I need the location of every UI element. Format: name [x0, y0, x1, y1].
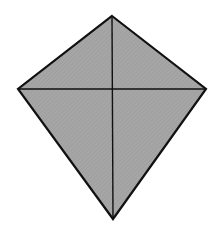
vertical-diagonal — [112, 16, 113, 219]
kite-diagram — [0, 0, 223, 227]
